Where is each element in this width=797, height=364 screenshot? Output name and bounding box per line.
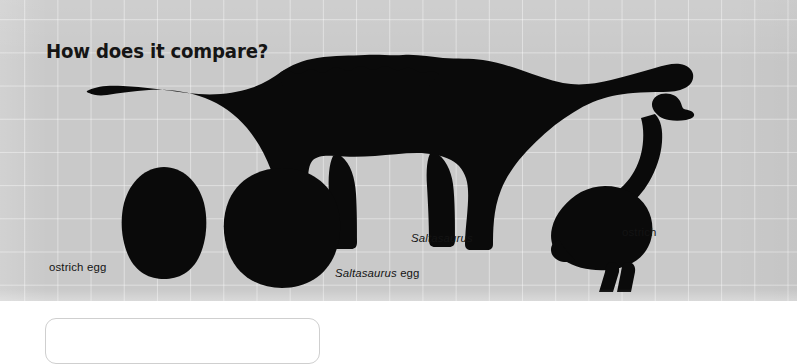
saltasaurus-egg-silhouette [222,166,342,290]
label-ostrich-egg: ostrich egg [49,261,106,273]
label-saltasaurus-text: Saltasaurus [411,232,473,244]
label-saltasaurus-egg-genus: Saltasaurus [335,267,397,279]
bottom-rounded-card [45,318,320,364]
saltasaurus-egg-path [224,168,341,288]
ostrich-head-path [652,93,694,120]
ostrich-silhouette [549,90,695,292]
label-ostrich-egg-text: ostrich egg [49,261,106,273]
label-ostrich: ostrich [622,226,657,238]
ostrich-egg-silhouette [120,165,208,281]
label-saltasaurus-egg-suffix: egg [397,267,420,279]
label-saltasaurus-egg: Saltasaurus egg [335,267,420,279]
ostrich-egg-path [122,167,207,279]
comparison-panel: How does it compare? [0,0,797,301]
label-saltasaurus: Saltasaurus [411,232,473,244]
label-ostrich-text: ostrich [622,226,657,238]
